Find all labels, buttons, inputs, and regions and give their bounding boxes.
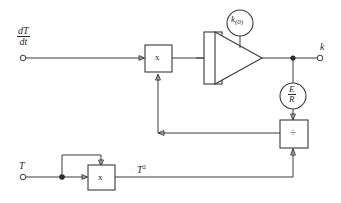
gain-constant-label: E R	[288, 85, 296, 104]
signal-label-t-squared: T2	[137, 164, 146, 175]
integrator-triangle[interactable]	[215, 32, 262, 84]
multiplier-bottom-symbol: x	[98, 173, 103, 182]
er-denominator: R	[288, 94, 296, 104]
initial-condition-subscript: (0)	[235, 18, 243, 26]
initial-condition-label: k(0)	[231, 15, 243, 26]
er-numerator: E	[288, 85, 296, 94]
ddt-denominator: dt	[17, 36, 30, 47]
divider-symbol: ÷	[290, 127, 296, 138]
ddt-numerator: dT	[17, 26, 30, 36]
multiplier-top-symbol: x	[155, 53, 160, 62]
input-terminal-temperature[interactable]	[20, 174, 26, 180]
input-terminal-ddt[interactable]	[20, 55, 26, 61]
output-terminal-k[interactable]	[317, 55, 323, 61]
output-label-k: k	[320, 42, 324, 52]
t-squared-exponent: 2	[143, 163, 147, 171]
input-label-temperature: T	[19, 161, 25, 171]
block-diagram-canvas: dT dt k T T2 k(0) E R x x ÷	[0, 0, 341, 203]
input-label-ddt: dT dt	[17, 26, 30, 47]
